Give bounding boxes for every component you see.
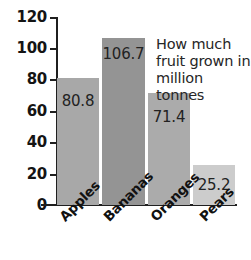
y-tick-label-40: 40 [3, 135, 47, 150]
y-tick-label-60: 60 [3, 104, 47, 119]
bar-chart: 120 100 80 60 40 20 0 80.8 106.7 71.4 25… [0, 0, 251, 260]
annotation-line-2: fruit grown in [156, 53, 251, 70]
annotation-line-1: How much [156, 36, 251, 53]
y-tick-label-80: 80 [3, 72, 47, 87]
bar-value-oranges: 71.4 [148, 110, 190, 125]
bar-value-apples: 80.8 [57, 94, 99, 109]
bar-value-bananas: 106.7 [102, 47, 145, 62]
y-tick-label-100: 100 [3, 41, 47, 56]
y-tick-label-20: 20 [3, 167, 47, 182]
annotation-line-3: million tonnes [156, 70, 251, 104]
y-tick-label-120: 120 [3, 10, 47, 25]
chart-annotation: How much fruit grown in million tonnes [156, 36, 251, 104]
